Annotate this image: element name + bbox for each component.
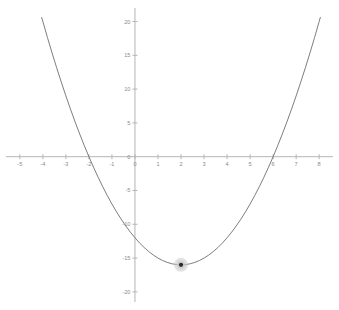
curve-path xyxy=(42,17,321,264)
marked-points-group xyxy=(174,258,188,272)
x-tick-label: -1 xyxy=(109,161,114,167)
x-tick-label: -2 xyxy=(86,161,91,167)
y-tick-label: 0 xyxy=(127,154,130,160)
vertex-point-marker[interactable] xyxy=(179,263,183,267)
x-tick-label: 7 xyxy=(295,161,298,167)
y-tick-label: 5 xyxy=(127,120,130,126)
x-tick-label: 6 xyxy=(272,161,275,167)
x-tick-label: 4 xyxy=(226,161,229,167)
y-tick-label: 20 xyxy=(124,19,130,25)
x-tick-label: 8 xyxy=(318,161,321,167)
data-series-group xyxy=(42,17,321,264)
y-tick-label: 10 xyxy=(124,86,130,92)
y-tick-label: -15 xyxy=(122,255,130,261)
x-tick-label: -5 xyxy=(17,161,22,167)
x-tick-label: 0 xyxy=(133,161,136,167)
x-axis-tick-labels: -5-4-3-2-1012345678 xyxy=(17,161,320,167)
x-tick-label: -3 xyxy=(63,161,68,167)
y-tick-label: -5 xyxy=(125,187,130,193)
parabola-plot: -5-4-3-2-1012345678 -20-15-10-505101520 xyxy=(0,0,339,310)
x-tick-label: 1 xyxy=(156,161,159,167)
y-tick-label: 15 xyxy=(124,52,130,58)
graph-canvas: -5-4-3-2-1012345678 -20-15-10-505101520 xyxy=(0,0,339,310)
x-tick-label: 3 xyxy=(202,161,205,167)
x-tick-label: 2 xyxy=(179,161,182,167)
x-tick-label: -4 xyxy=(40,161,45,167)
x-tick-label: 5 xyxy=(249,161,252,167)
y-tick-label: -20 xyxy=(122,289,130,295)
axes-group xyxy=(6,8,333,302)
